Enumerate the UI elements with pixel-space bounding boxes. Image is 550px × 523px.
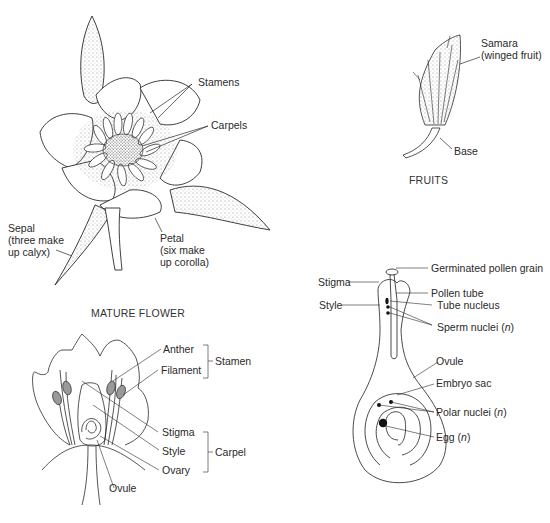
label-germinated-pollen-grain: Germinated pollen grain <box>431 262 543 274</box>
label-stigma-fert: Stigma <box>318 276 351 288</box>
label-pollen-tube: Pollen tube <box>431 287 484 299</box>
label-ovule-fert: Ovule <box>436 355 463 367</box>
label-carpel-group: Carpel <box>215 446 246 458</box>
label-carpels: Carpels <box>211 119 247 131</box>
label-ovary: Ovary <box>162 464 190 476</box>
label-sepal: Sepal (three make up calyx) <box>8 222 64 258</box>
label-filament: Filament <box>161 364 201 376</box>
truncated-figure-caption <box>155 514 545 523</box>
caption-mature-flower: MATURE FLOWER <box>91 307 185 319</box>
label-base: Base <box>454 145 478 157</box>
label-embryo-sac: Embryo sac <box>436 377 491 389</box>
mature-flower-illustration <box>40 16 270 285</box>
label-egg: Egg (n) <box>436 431 470 443</box>
label-stamens: Stamens <box>198 76 239 88</box>
flower-section-illustration <box>33 334 149 505</box>
label-polar-nuclei: Polar nuclei (n) <box>436 406 507 418</box>
label-sperm-nuclei: Sperm nuclei (n) <box>437 321 514 333</box>
fertilization-illustration <box>353 269 446 483</box>
label-ovule-section: Ovule <box>109 482 136 494</box>
label-style-fert: Style <box>319 299 342 311</box>
label-stamen-group: Stamen <box>215 355 251 367</box>
label-samara: Samara (winged fruit) <box>481 37 542 61</box>
label-petal: Petal (six make up corolla) <box>160 232 209 268</box>
caption-fruits: FRUITS <box>409 174 448 186</box>
samara-fruit-illustration <box>403 35 460 158</box>
label-anther: Anther <box>163 343 194 355</box>
label-tube-nucleus: Tube nucleus <box>437 299 500 311</box>
label-stigma: Stigma <box>162 426 195 438</box>
label-style: Style <box>162 445 185 457</box>
